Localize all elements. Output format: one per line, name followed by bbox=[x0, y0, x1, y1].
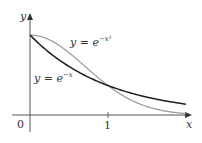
label-exp-neg-x-base: y = e bbox=[33, 72, 63, 85]
x-tick-1-label: 1 bbox=[104, 119, 111, 132]
curve-exp-neg-x bbox=[30, 35, 186, 104]
label-exp-neg-x-exponent: −x bbox=[63, 71, 73, 79]
x-axis-label: x bbox=[186, 118, 193, 131]
label-exp-neg-x-squared: y = e−x² bbox=[69, 35, 112, 49]
label-exp-neg-x-squared-base: y = e bbox=[69, 36, 99, 49]
label-exp-neg-x-squared-exponent: −x² bbox=[99, 35, 112, 43]
y-axis-arrow-icon bbox=[27, 13, 33, 20]
label-exp-neg-x: y = e−x bbox=[33, 71, 73, 85]
origin-label: 0 bbox=[17, 118, 24, 131]
chart: y x 0 1 y = e−x² y = e−x bbox=[0, 0, 202, 143]
y-axis-label: y bbox=[19, 10, 27, 23]
